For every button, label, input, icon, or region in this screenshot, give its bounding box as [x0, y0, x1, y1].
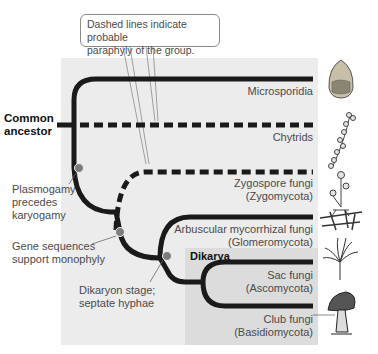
taxon-label: Chytrids — [273, 131, 313, 144]
root-label-line1: Common — [4, 112, 54, 125]
taxon-label: Arbuscular mycorrhizal fungi — [174, 223, 313, 236]
taxon-label: Microsporidia — [248, 85, 313, 98]
taxon-microsporidia: Microsporidia — [248, 85, 313, 98]
taxon-label: Sac fungi — [246, 269, 313, 282]
character-label-line: precedes — [12, 196, 76, 209]
character-label-line: Gene sequences — [12, 240, 105, 253]
character-gene-sequences: Gene sequences support monophyly — [12, 240, 105, 266]
dikarya-label: Dikarya — [190, 250, 230, 263]
root-label: Common ancestor — [4, 112, 54, 138]
taxon-chytrids: Chytrids — [273, 131, 313, 144]
character-label-line: Plasmogamy — [12, 183, 76, 196]
taxon-sublabel: (Glomeromycota) — [174, 236, 313, 249]
character-label-line: karyogamy — [12, 209, 76, 222]
node-gene-sequences — [116, 228, 125, 237]
taxon-label: Zygospore fungi — [234, 177, 313, 190]
callout-text-line2: paraphyly of the group. — [87, 44, 219, 57]
taxon-basidiomycota: Club fungi (Basidiomycota) — [234, 313, 313, 339]
character-label-line: support monophyly — [12, 253, 105, 266]
taxon-sublabel: (Basidiomycota) — [234, 326, 313, 339]
taxon-label: Club fungi — [234, 313, 313, 326]
root-label-line2: ancestor — [4, 125, 54, 138]
chytrid-icon — [329, 113, 356, 169]
taxon-glomeromycota: Arbuscular mycorrhizal fungi (Glomeromyc… — [174, 223, 313, 249]
sac-fungi-icon — [323, 238, 358, 280]
paraphyly-callout: Dashed lines indicate probable paraphyly… — [80, 14, 220, 47]
character-dikaryon: Dikaryon stage; septate hyphae — [79, 284, 155, 310]
taxon-sublabel: (Zygomycota) — [234, 190, 313, 203]
character-plasmogamy: Plasmogamy precedes karyogamy — [12, 183, 76, 222]
node-plasmogamy — [75, 164, 84, 173]
callout-text-line1: Dashed lines indicate probable — [87, 18, 219, 44]
taxon-ascomycota: Sac fungi (Ascomycota) — [246, 269, 313, 295]
taxon-zygomycota: Zygospore fungi (Zygomycota) — [234, 177, 313, 203]
mushroom-icon — [328, 292, 355, 334]
node-dikaryon — [163, 252, 172, 261]
character-label-line: Dikaryon stage; — [79, 284, 155, 297]
taxon-sublabel: (Ascomycota) — [246, 282, 313, 295]
character-label-line: septate hyphae — [79, 297, 155, 310]
zygospore-fungi-icon — [330, 172, 349, 217]
mycorrhizal-fungi-icon — [320, 210, 362, 230]
microsporidia-spore-icon — [329, 60, 353, 98]
